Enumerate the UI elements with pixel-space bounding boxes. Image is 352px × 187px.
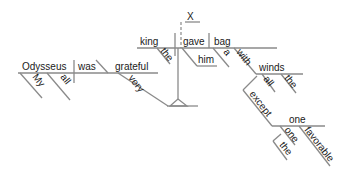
word-winds: winds [258, 62, 285, 73]
word-was: was [77, 61, 96, 72]
word-my: My [30, 71, 47, 88]
word-the-winds: the [282, 72, 299, 90]
word-favorable: favorable [302, 124, 336, 164]
pedestal-triangle [170, 99, 187, 106]
except-stem [243, 76, 257, 90]
word-bag: bag [214, 36, 231, 47]
sentence-diagram: X king the gave him bag a with winds all… [0, 0, 352, 187]
word-x: X [187, 11, 194, 22]
predicate-adjective-slash [96, 60, 108, 73]
word-grateful: grateful [115, 61, 148, 72]
lower-clause: Odysseus was grateful My all very [18, 60, 168, 106]
word-all-odysseus: all [58, 71, 73, 86]
word-gave: gave [183, 36, 205, 47]
word-very: very [126, 72, 146, 94]
word-with: with [234, 46, 254, 68]
word-one-object: one [289, 114, 306, 125]
modifier-stem-the-one [273, 134, 281, 141]
word-odysseus: Odysseus [22, 61, 66, 72]
upper-clause: X king the gave him bag a with winds all… [137, 11, 337, 166]
word-king: king [140, 36, 158, 47]
word-him: him [198, 54, 214, 65]
word-except: except [247, 88, 274, 118]
indirect-object-slant [182, 48, 197, 66]
